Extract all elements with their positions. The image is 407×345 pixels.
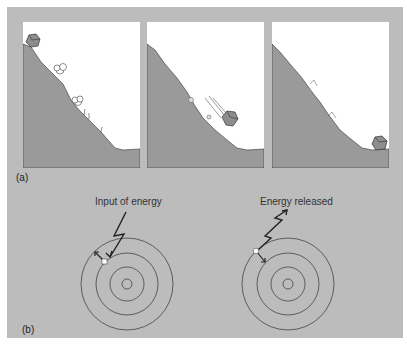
atom-diagrams [0,0,407,345]
part-b-label: (b) [22,324,34,335]
electron-icon [102,259,107,264]
electron-drop-arrow [257,252,265,262]
lightning-bolt-icon [257,210,287,251]
lightning-bolt-icon [106,212,126,257]
electron-icon [253,248,259,254]
